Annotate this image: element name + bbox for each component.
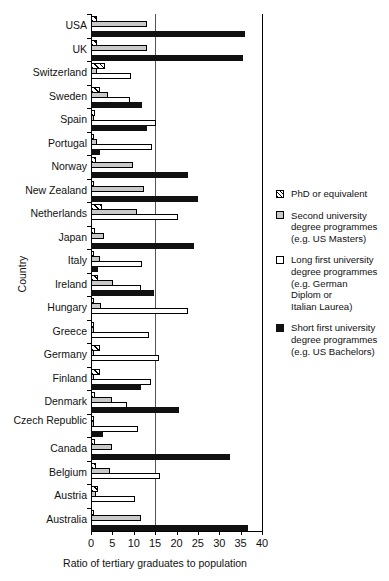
- bar-shortfirst: [91, 266, 98, 272]
- y-axis-label: Australia: [1, 514, 87, 525]
- x-tick-label: 20: [170, 537, 182, 549]
- legend-swatch-second: [276, 211, 284, 219]
- y-axis-tick: [87, 343, 91, 344]
- legend-label-line: (e.g. German: [291, 278, 386, 290]
- y-axis-label: New Zealand: [1, 185, 87, 196]
- y-axis-tick: [87, 85, 91, 86]
- bar-shortfirst: [91, 125, 147, 131]
- bar-shortfirst: [91, 31, 245, 37]
- y-axis-tick: [87, 14, 91, 15]
- bar-shortfirst: [91, 384, 141, 390]
- y-axis-tick: [87, 484, 91, 485]
- legend-label-line: (e.g. US Masters): [291, 233, 386, 245]
- y-axis-label: Norway: [1, 161, 87, 172]
- bar-shortfirst: [91, 290, 154, 296]
- y-axis-tick: [87, 390, 91, 391]
- legend-label-line: Second university: [291, 210, 386, 222]
- legend-label-line: Long first university: [291, 254, 386, 266]
- y-axis-label: Germany: [1, 349, 87, 360]
- bar-longfirst: [91, 144, 152, 150]
- y-axis-label: Czech Republic: [1, 415, 87, 426]
- bar-shortfirst: [91, 454, 230, 460]
- legend-label-line: Diplom or: [291, 289, 386, 301]
- y-axis-tick: [87, 132, 91, 133]
- y-axis-tick: [87, 296, 91, 297]
- x-tick: [241, 531, 242, 535]
- legend-label-line: PhD or equivalent: [291, 188, 386, 200]
- x-tick-label: 40: [256, 537, 268, 549]
- y-axis-title: Country: [16, 214, 28, 334]
- y-axis-label: Netherlands: [1, 208, 87, 219]
- bar-shortfirst: [91, 172, 188, 178]
- legend-swatch-phd: [276, 190, 284, 198]
- legend-item-phd: PhD or equivalent: [276, 188, 386, 200]
- legend-swatch-shortfirst: [276, 324, 284, 332]
- y-axis-label: Ireland: [1, 279, 87, 290]
- bar-longfirst: [91, 332, 149, 338]
- x-tick: [155, 531, 156, 535]
- y-axis-label: Belgium: [1, 467, 87, 478]
- y-axis-tick: [87, 108, 91, 109]
- x-tick-label: 0: [88, 537, 94, 549]
- legend-swatch-longfirst: [276, 256, 284, 264]
- legend-label-line: (e.g. US Bachelors): [291, 346, 386, 358]
- x-tick-label: 30: [213, 537, 225, 549]
- bar-longfirst: [91, 214, 178, 220]
- y-axis-label: Spain: [1, 114, 87, 125]
- y-axis-label: Denmark: [1, 396, 87, 407]
- y-axis-tick: [87, 202, 91, 203]
- bar-shortfirst: [91, 407, 179, 413]
- x-tick: [134, 531, 135, 535]
- y-axis-tick: [87, 508, 91, 509]
- bar-longfirst: [91, 261, 142, 267]
- y-axis-tick: [87, 367, 91, 368]
- x-tick: [219, 531, 220, 535]
- y-axis-label: UK: [1, 44, 87, 55]
- y-axis-tick: [87, 437, 91, 438]
- x-tick-label: 10: [128, 537, 140, 549]
- y-axis-tick: [87, 249, 91, 250]
- y-axis-tick: [87, 61, 91, 62]
- bar-second: [91, 21, 147, 27]
- x-tick: [177, 531, 178, 535]
- y-axis-tick: [87, 320, 91, 321]
- y-axis-tick: [87, 155, 91, 156]
- x-tick-label: 5: [109, 537, 115, 549]
- bar-second: [91, 515, 141, 521]
- legend-item-longfirst: Long first universitydegree programmes(e…: [276, 254, 386, 312]
- bar-shortfirst: [91, 196, 198, 202]
- bar-second: [91, 233, 104, 239]
- y-axis-label: Japan: [1, 232, 87, 243]
- bar-longfirst: [91, 73, 131, 79]
- y-axis-label: USA: [1, 20, 87, 31]
- legend-label-line: degree programmes: [291, 266, 386, 278]
- bar-shortfirst: [91, 55, 243, 61]
- y-axis-label: Canada: [1, 443, 87, 454]
- y-axis-label: Portugal: [1, 138, 87, 149]
- legend-label-line: Italian Laurea): [291, 301, 386, 313]
- x-tick-label: 15: [149, 537, 161, 549]
- legend-item-second: Second universitydegree programmes(e.g. …: [276, 210, 386, 245]
- legend-label-line: degree programmes: [291, 221, 386, 233]
- bar-longfirst: [91, 473, 160, 479]
- legend-label-line: degree programmes: [291, 334, 386, 346]
- y-axis-label: Austria: [1, 490, 87, 501]
- x-axis-title: Ratio of tertiary graduates to populatio…: [0, 557, 310, 569]
- chart-legend: PhD or equivalentSecond universitydegree…: [276, 188, 386, 367]
- y-axis-label: Finland: [1, 373, 87, 384]
- bar-second: [91, 45, 147, 51]
- bar-shortfirst: [91, 149, 100, 155]
- bar-shortfirst: [91, 243, 194, 249]
- y-axis-label: Greece: [1, 326, 87, 337]
- y-axis-label: Italy: [1, 255, 87, 266]
- y-axis-label: Sweden: [1, 91, 87, 102]
- bar-shortfirst: [91, 525, 248, 531]
- x-tick: [112, 531, 113, 535]
- y-axis-tick: [87, 226, 91, 227]
- bar-longfirst: [91, 308, 188, 314]
- bar-longfirst: [91, 355, 159, 361]
- legend-item-shortfirst: Short first universitydegree programmes(…: [276, 322, 386, 357]
- bar-longfirst: [91, 496, 135, 502]
- x-tick-label: 25: [192, 537, 204, 549]
- y-axis-tick: [87, 179, 91, 180]
